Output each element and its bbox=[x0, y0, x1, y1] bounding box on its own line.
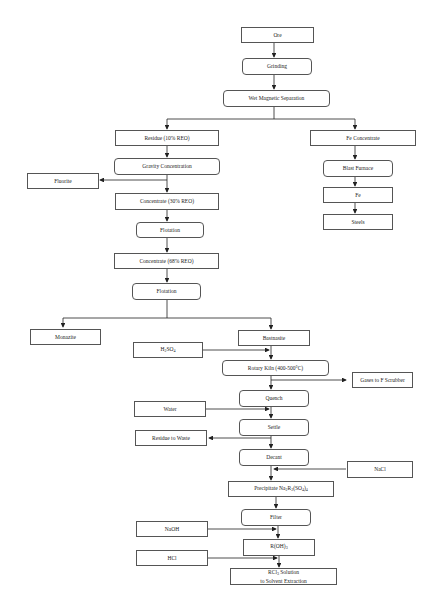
node-concentrate-68: Concentrate (68% REO) bbox=[114, 253, 219, 269]
node-water: Water bbox=[134, 401, 206, 417]
node-label: Fluorite bbox=[54, 178, 71, 185]
node-blast-furnace: Blast Furnace bbox=[323, 160, 393, 177]
node-label: Precipitate Na2R2(SO4)4 bbox=[254, 485, 308, 494]
node-label: Fe Concentrate bbox=[346, 135, 379, 142]
node-label-line1: RCl3 Solution bbox=[268, 569, 299, 578]
node-concentrate-30: Concentrate (30% REO) bbox=[115, 193, 219, 210]
node-quench: Quench bbox=[239, 390, 309, 407]
node-filter: Filter bbox=[241, 509, 311, 526]
node-label: Monazite bbox=[55, 334, 76, 341]
node-settle: Settle bbox=[239, 419, 309, 436]
node-label: Gases to F Scrubber bbox=[360, 377, 404, 384]
node-label: Decant bbox=[266, 454, 282, 461]
node-label: Grinding bbox=[267, 63, 287, 70]
node-label: Bastnasite bbox=[263, 335, 286, 342]
node-label: Steels bbox=[351, 219, 364, 226]
node-label: Filter bbox=[270, 514, 282, 521]
node-label: Residue to Waste bbox=[152, 435, 190, 442]
node-label: R(OH)3 bbox=[270, 543, 287, 552]
node-gravity-concentration: Gravity Concentration bbox=[114, 158, 220, 175]
connector-lines bbox=[0, 0, 444, 609]
node-gases-to-f-scrubber: Gases to F Scrubber bbox=[352, 372, 413, 388]
node-ore: Ore bbox=[241, 27, 314, 43]
node-label: Fe bbox=[355, 192, 361, 199]
node-flotation-1: Flotation bbox=[136, 222, 204, 238]
node-grinding: Grinding bbox=[242, 58, 312, 75]
node-fluorite: Fluorite bbox=[27, 173, 99, 189]
node-rotary-kiln: Rotary Kiln (400-500°C) bbox=[222, 360, 329, 376]
node-label: Rotary Kiln (400-500°C) bbox=[248, 365, 303, 372]
node-label: H2SO4 bbox=[160, 346, 175, 355]
node-label: Gravity Concentration bbox=[142, 163, 191, 170]
node-h2so4: H2SO4 bbox=[133, 342, 203, 358]
node-nacl: NaCl bbox=[347, 461, 413, 478]
node-label: Concentrate (68% REO) bbox=[139, 258, 193, 265]
node-fe: Fe bbox=[323, 187, 393, 203]
node-fe-concentrate: Fe Concentrate bbox=[310, 130, 416, 146]
node-precipitate: Precipitate Na2R2(SO4)4 bbox=[228, 481, 334, 497]
node-label-line2: to Solvent Extraction bbox=[260, 578, 307, 585]
node-label: NaOH bbox=[165, 526, 179, 533]
node-label: NaCl bbox=[374, 466, 386, 473]
node-monazite: Monazite bbox=[30, 329, 101, 345]
node-steels: Steels bbox=[323, 214, 393, 230]
node-label: HCl bbox=[167, 555, 176, 562]
node-roh3: R(OH)3 bbox=[243, 539, 315, 556]
node-label: Flotation bbox=[157, 288, 177, 295]
node-label: Settle bbox=[268, 424, 281, 431]
node-label: Wet Magnetic Separation bbox=[249, 95, 305, 102]
node-label: Blast Furnace bbox=[343, 165, 373, 172]
node-rcl3-solution: RCl3 Solution to Solvent Extraction bbox=[230, 568, 337, 585]
node-label: Ore bbox=[273, 32, 281, 39]
node-label: Water bbox=[164, 406, 177, 413]
node-hcl: HCl bbox=[136, 550, 208, 566]
node-label: Quench bbox=[265, 395, 282, 402]
node-decant: Decant bbox=[239, 449, 309, 466]
node-naoh: NaOH bbox=[136, 521, 208, 537]
node-flotation-2: Flotation bbox=[132, 283, 201, 300]
node-label: Residue (10% REO) bbox=[144, 135, 189, 142]
node-residue: Residue (10% REO) bbox=[115, 130, 219, 146]
node-wet-magnetic-separation: Wet Magnetic Separation bbox=[223, 90, 330, 107]
node-residue-to-waste: Residue to Waste bbox=[135, 430, 207, 446]
node-label: Concentrate (30% REO) bbox=[140, 198, 194, 205]
node-label: Flotation bbox=[160, 227, 180, 234]
node-bastnasite: Bastnasite bbox=[238, 330, 310, 346]
